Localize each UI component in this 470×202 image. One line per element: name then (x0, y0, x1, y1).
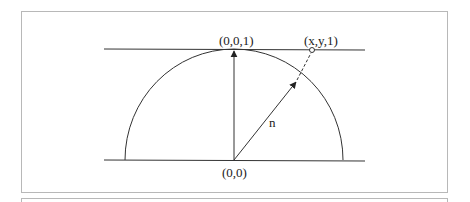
projected-point-marker (310, 48, 315, 53)
normal-arrow (234, 82, 296, 160)
hemisphere-projection-diagram: (0,0,1) (x,y,1) n (0,0) (0, 0, 470, 202)
label-origin: (0,0) (222, 165, 247, 180)
label-normal: n (269, 115, 276, 130)
label-projected-point: (x,y,1) (304, 33, 338, 48)
projection-dashed-line (297, 53, 311, 80)
label-top-point: (0,0,1) (219, 33, 254, 48)
